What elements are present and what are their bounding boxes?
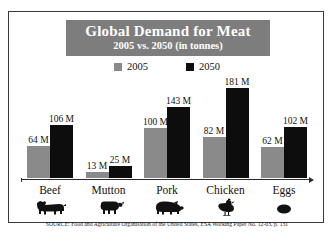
bar-value-pork-2050: 143 M [166, 96, 191, 106]
chart-subtitle: 2005 vs. 2050 (in tonnes) [66, 40, 270, 52]
x-axis [21, 178, 315, 183]
legend-item-2005: 2005 [114, 62, 148, 72]
bar-value-beef-2050: 106 M [49, 114, 74, 124]
category-eggs: Eggs [261, 184, 307, 216]
chicken-icon [215, 198, 237, 216]
category-label-eggs: Eggs [261, 184, 307, 197]
chart-legend: 2005 2050 [9, 62, 325, 72]
category-beef: Beef [27, 184, 73, 216]
category-pork: Pork [144, 184, 190, 216]
chart-figure: Global Demand for Meat 2005 vs. 2050 (in… [8, 11, 324, 223]
axis-arrow-icon [309, 177, 314, 183]
sheep-icon [94, 198, 124, 216]
bar-mutton-2050: 25 M [109, 166, 132, 179]
legend-swatch-2050 [186, 63, 194, 71]
bar-value-eggs-2050: 102 M [283, 116, 308, 126]
bar-group-eggs: 62 M 102 M [261, 127, 307, 178]
bar-rect-chicken-2005 [203, 137, 226, 178]
category-label-mutton: Mutton [86, 184, 132, 197]
bar-group-mutton: 13 M 25 M [86, 166, 132, 179]
bar-groups: 64 M 106 M 13 M 25 M [23, 78, 311, 178]
chart-title: Global Demand for Meat [66, 22, 270, 40]
cow-icon [33, 198, 67, 216]
bar-rect-eggs-2050 [284, 127, 307, 178]
bar-group-pork: 100 M 143 M [144, 107, 190, 179]
title-banner: Global Demand for Meat 2005 vs. 2050 (in… [66, 20, 270, 56]
plot-area: 64 M 106 M 13 M 25 M [23, 78, 311, 178]
bar-pork-2050: 143 M [167, 107, 190, 179]
category-label-pork: Pork [144, 184, 190, 197]
bar-rect-eggs-2005 [261, 147, 284, 178]
bar-value-mutton-2005: 13 M [87, 161, 107, 171]
bar-value-chicken-2050: 181 M [224, 77, 249, 87]
source-note: SOURCE: Food and Agriculture Organisatio… [9, 221, 325, 228]
bar-chicken-2050: 181 M [226, 88, 249, 179]
bar-beef-2050: 106 M [50, 125, 73, 178]
bar-value-eggs-2005: 62 M [262, 136, 282, 146]
bar-rect-beef-2050 [50, 125, 73, 178]
legend-swatch-2005 [114, 63, 122, 71]
category-mutton: Mutton [86, 184, 132, 216]
bar-rect-beef-2005 [27, 146, 50, 178]
bar-value-pork-2005: 100 M [143, 117, 168, 127]
bar-eggs-2050: 102 M [284, 127, 307, 178]
pig-icon [150, 198, 184, 216]
category-label-chicken: Chicken [203, 184, 249, 197]
category-labels: Beef Mutton Pork Chicken [23, 184, 311, 216]
bar-pork-2005: 100 M [144, 128, 167, 178]
bar-value-mutton-2050: 25 M [110, 155, 130, 165]
bar-value-beef-2005: 64 M [28, 135, 48, 145]
legend-item-2050: 2050 [186, 62, 220, 72]
bar-group-beef: 64 M 106 M [27, 125, 73, 178]
bar-eggs-2005: 62 M [261, 147, 284, 178]
legend-label-2005: 2005 [127, 62, 148, 72]
legend-label-2050: 2050 [199, 62, 220, 72]
axis-line [21, 179, 311, 180]
category-label-beef: Beef [27, 184, 73, 197]
bar-beef-2005: 64 M [27, 146, 50, 178]
category-chicken: Chicken [203, 184, 249, 216]
bar-value-chicken-2005: 82 M [204, 126, 224, 136]
bar-group-chicken: 82 M 181 M [203, 88, 249, 179]
bar-rect-pork-2005 [144, 128, 167, 178]
egg-icon [273, 198, 295, 216]
bar-chicken-2005: 82 M [203, 137, 226, 178]
bar-rect-pork-2050 [167, 107, 190, 179]
bar-rect-chicken-2050 [226, 88, 249, 179]
bar-rect-mutton-2050 [109, 166, 132, 179]
